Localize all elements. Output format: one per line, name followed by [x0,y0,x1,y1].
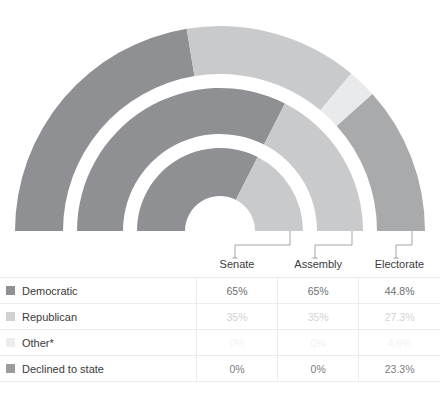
table-head: Senate Assembly Electorate [0,258,440,278]
row-label: Declined to state [22,363,104,375]
value-cell: 0% [196,356,277,382]
value-cell: 27.3% [359,304,440,330]
value-cell: 0% [278,330,359,356]
legend-swatch-icon [6,286,15,295]
value-cell: 35% [196,304,277,330]
connector-lines [233,231,413,258]
table-row: Republican35%35%27.3% [0,304,440,330]
value-cell: 35% [278,304,359,330]
connector-senate [235,231,290,258]
header-senate: Senate [196,258,277,278]
chart-page: Senate Assembly Electorate Democratic65%… [0,0,440,403]
table-row: Declined to state0%0%23.3% [0,356,440,382]
header-assembly: Assembly [278,258,359,278]
row-label-cell: Other* [0,330,196,356]
row-label: Other* [22,337,54,349]
table-row: Democratic65%65%44.8% [0,278,440,304]
ring-senate [137,148,303,231]
legend-swatch-icon [6,364,15,373]
header-blank [0,258,196,278]
value-cell: 4.6% [359,330,440,356]
legend-swatch-icon [6,338,15,347]
value-cell: 23.3% [359,356,440,382]
chart-svg [0,0,440,262]
legend-swatch-icon [6,312,15,321]
value-cell: 0% [278,356,359,382]
row-label-cell: Republican [0,304,196,330]
value-cell: 65% [278,278,359,304]
value-cell: 65% [196,278,277,304]
row-label-cell: Declined to state [0,356,196,382]
value-cell: 0% [196,330,277,356]
data-table: Senate Assembly Electorate Democratic65%… [0,258,440,382]
nested-half-donut-chart [0,0,440,262]
connector-electorate [396,231,412,258]
header-electorate: Electorate [359,258,440,278]
legend-data-table: Senate Assembly Electorate Democratic65%… [0,258,440,382]
value-cell: 44.8% [359,278,440,304]
connector-assembly [315,231,352,258]
row-label-cell: Democratic [0,278,196,304]
table-row: Other*0%0%4.6% [0,330,440,356]
row-label: Democratic [22,285,78,297]
header-row: Senate Assembly Electorate [0,258,440,278]
row-label: Republican [22,311,77,323]
table-body: Democratic65%65%44.8%Republican35%35%27.… [0,278,440,382]
arc-senate-democratic[interactable] [137,148,258,231]
